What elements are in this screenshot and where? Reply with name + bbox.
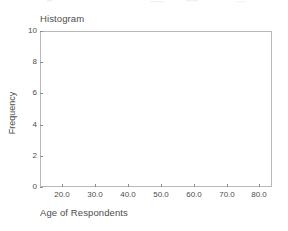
- x-tick-mark: [194, 184, 195, 187]
- scan-artifact: [0, 0, 288, 7]
- plot-frame: [40, 31, 272, 187]
- chart-title: Histogram: [40, 13, 84, 24]
- x-tick-mark: [259, 184, 260, 187]
- y-tick-label-wrap: 4: [0, 121, 37, 129]
- y-tick-label-wrap: 2: [0, 152, 37, 160]
- x-tick-mark: [161, 184, 162, 187]
- y-tick-mark: [40, 62, 43, 63]
- y-tick-label: 2: [3, 152, 37, 160]
- y-tick-label-wrap: 6: [0, 89, 37, 97]
- x-tick-mark: [128, 184, 129, 187]
- x-tick-mark: [62, 184, 63, 187]
- y-tick-label-wrap: 8: [0, 58, 37, 66]
- y-tick-mark: [40, 125, 43, 126]
- y-tick-mark: [40, 187, 43, 188]
- y-tick-mark: [40, 31, 43, 32]
- x-axis-title: Age of Respondents: [40, 207, 128, 218]
- y-tick-label: 0: [3, 183, 37, 191]
- x-tick-mark: [95, 184, 96, 187]
- histogram-figure: Histogram 10 8 6 4 2 0 20.0 30.0 40.0 50…: [0, 0, 288, 231]
- plot-area: [41, 32, 271, 186]
- y-tick-mark: [40, 156, 43, 157]
- y-axis-title: Frequency: [7, 75, 17, 151]
- x-tick-label: 80.0: [239, 190, 279, 199]
- y-tick-label: 10: [3, 27, 37, 35]
- y-tick-label-wrap: 0: [0, 183, 37, 191]
- y-tick-label-wrap: 10: [0, 27, 37, 35]
- x-tick-mark: [227, 184, 228, 187]
- y-tick-label: 8: [3, 58, 37, 66]
- y-tick-mark: [40, 93, 43, 94]
